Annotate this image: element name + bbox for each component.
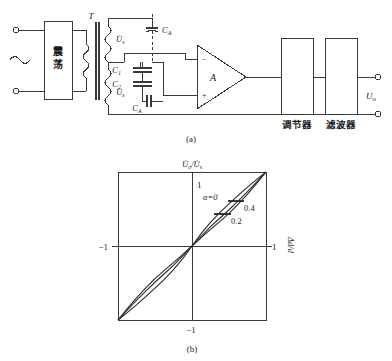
cap-bottom-label: CA	[132, 103, 142, 114]
opamp-plus-sign: +	[202, 91, 207, 100]
oscillator-label-2: 荡	[53, 58, 63, 70]
annotation-0-2: 0.2	[231, 216, 242, 226]
panel-b-caption: (b)	[187, 344, 198, 354]
cap-c1-label: C1	[112, 65, 121, 76]
filter-label: 滤波器	[326, 119, 356, 130]
input-terminal-bottom	[13, 88, 18, 93]
transformer-secondary-coil-lower	[105, 69, 111, 105]
oscillator-label: 震	[53, 46, 64, 57]
figure-root: 震 荡 T U̇s U̇s CA CA C1 C2 A − + 调节器 滤波器 …	[0, 0, 392, 361]
ac-source-icon	[10, 57, 30, 64]
output-terminal-bottom	[375, 111, 380, 116]
plot-x-axis-label: Δd/d	[286, 236, 296, 254]
tick-y-top-label: 1	[197, 180, 202, 190]
cap-top-label: CA	[162, 25, 172, 36]
opamp-minus-sign: −	[202, 55, 207, 64]
filter-block	[325, 38, 357, 114]
winding-upper-label: U̇s	[116, 34, 125, 45]
input-terminal-top	[13, 27, 18, 32]
transformer-secondary-coil-upper	[105, 26, 111, 62]
panel-a-caption: (a)	[186, 134, 196, 144]
tick-x-left-label: −1	[98, 242, 108, 252]
output-terminal-top	[375, 74, 380, 79]
annotation-0-4: 0.4	[244, 203, 255, 213]
plot-y-axis-label: U̇o/U̇s	[182, 159, 203, 170]
annotation-alpha-0: α=0	[203, 192, 218, 202]
figure-text-layer: 震 荡 T U̇s U̇s CA CA C1 C2 A − + 调节器 滤波器 …	[53, 11, 377, 354]
tick-x-right-label: 1	[272, 242, 277, 252]
transformer-label: T	[88, 11, 94, 21]
figure-svg: 震 荡 T U̇s U̇s CA CA C1 C2 A − + 调节器 滤波器 …	[0, 0, 392, 361]
transformer-primary-coil	[83, 44, 89, 78]
tick-x-bottom-label: −1	[186, 325, 196, 335]
output-label: Uo	[366, 91, 377, 102]
regulator-label: 调节器	[282, 119, 312, 130]
regulator-block	[281, 38, 313, 114]
opamp-label: A	[209, 72, 217, 83]
cap-c2-label: C2	[112, 79, 121, 90]
